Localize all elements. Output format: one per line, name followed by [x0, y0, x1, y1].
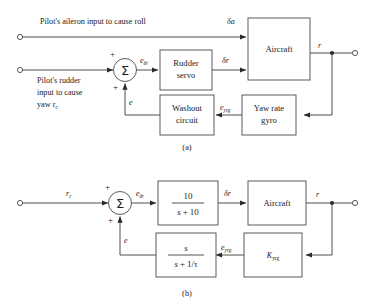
block-rudder-servo-line1: Rudder: [173, 58, 198, 68]
signal-r-label-b: r: [316, 190, 320, 199]
signal-e-label-b: e: [124, 236, 128, 245]
diagram-b: Σ + + 10 s+10 Aircraft Kyrg: [17, 181, 357, 298]
block-yaw-rate-gyro-line2: gyro: [261, 115, 277, 125]
summer-a-sign-bottom: +: [113, 82, 118, 92]
signal-delta-r-label-a: δr: [222, 56, 230, 65]
summer-b-sign-left: +: [105, 182, 110, 192]
summer-b-sign-bottom: +: [108, 215, 113, 225]
signal-e-yrg-label-b: eyrg: [221, 243, 232, 253]
block-diagram-svg: Σ + + Rudder servo Aircraft Yaw rate: [0, 0, 375, 303]
signal-e-yrg-label-a: eyrg: [220, 103, 231, 113]
aileron-input-terminal[interactable]: [17, 34, 22, 39]
signal-delta-r-label-b: δr: [224, 189, 232, 198]
output-terminal-b[interactable]: [352, 200, 357, 205]
rudder-input-label-line3: yaw rc: [37, 100, 58, 110]
signal-delta-a-label: δa: [227, 17, 235, 26]
diagram-a: Σ + + Rudder servo Aircraft Yaw rate: [17, 17, 357, 152]
caption-a: (a): [182, 143, 192, 152]
rc-input-terminal-b[interactable]: [17, 200, 22, 205]
aileron-input-label: Pilot's aileron input to cause roll: [40, 17, 147, 26]
rudder-input-label-line2: input to cause: [37, 88, 83, 97]
signal-e-delta-r-label-b: eδr: [136, 189, 145, 199]
rudder-input-label-line1: Pilot's rudder: [37, 76, 81, 85]
signal-e-delta-r-label-a: eδr: [140, 56, 149, 66]
summing-junction-a-symbol: Σ: [121, 63, 129, 78]
block-washout-circuit-line1: Washout: [172, 103, 202, 113]
washout-tf-numerator: s: [184, 243, 188, 253]
block-rudder-servo-line2: servo: [177, 70, 196, 80]
signal-e-label-a: e: [129, 98, 133, 107]
signal-r-label-a: r: [318, 41, 322, 50]
signal-rc-label-b: rc: [66, 189, 72, 199]
summer-a-sign-left: +: [110, 49, 115, 59]
figure-container: Σ + + Rudder servo Aircraft Yaw rate: [0, 0, 375, 303]
summing-junction-b-symbol: Σ: [116, 196, 124, 211]
block-aircraft-a-label: Aircraft: [265, 44, 293, 54]
caption-b: (b): [182, 289, 192, 298]
servo-tf-numerator: 10: [184, 191, 194, 201]
output-terminal-a[interactable]: [352, 50, 357, 55]
block-aircraft-b-label: Aircraft: [263, 198, 291, 208]
rudder-input-terminal[interactable]: [17, 67, 22, 72]
block-washout-circuit-line2: circuit: [176, 115, 199, 125]
block-yaw-rate-gyro-line1: Yaw rate: [254, 103, 285, 113]
